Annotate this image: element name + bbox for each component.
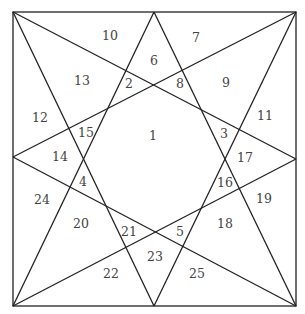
region-label-23: 23 — [147, 251, 163, 264]
region-label-2: 2 — [125, 78, 133, 91]
region-label-13: 13 — [74, 75, 90, 88]
region-label-9: 9 — [222, 77, 230, 90]
region-label-21: 21 — [121, 226, 137, 239]
region-label-18: 18 — [217, 218, 233, 231]
region-label-14: 14 — [52, 151, 68, 164]
region-label-24: 24 — [34, 194, 50, 207]
region-label-8: 8 — [176, 78, 184, 91]
region-label-4: 4 — [79, 176, 87, 189]
region-label-7: 7 — [192, 32, 200, 45]
region-label-3: 3 — [220, 128, 228, 141]
region-label-19: 19 — [256, 193, 272, 206]
region-label-10: 10 — [102, 30, 118, 43]
region-label-11: 11 — [257, 110, 273, 123]
region-label-5: 5 — [176, 226, 184, 239]
region-label-25: 25 — [189, 268, 205, 281]
region-label-20: 20 — [73, 218, 89, 231]
region-label-22: 22 — [103, 268, 119, 281]
region-label-1: 1 — [149, 130, 157, 143]
region-label-17: 17 — [237, 152, 253, 165]
region-label-6: 6 — [150, 55, 158, 68]
region-label-12: 12 — [32, 112, 48, 125]
region-label-15: 15 — [78, 127, 94, 140]
region-label-16: 16 — [217, 177, 233, 190]
star-square-diagram — [0, 0, 305, 314]
